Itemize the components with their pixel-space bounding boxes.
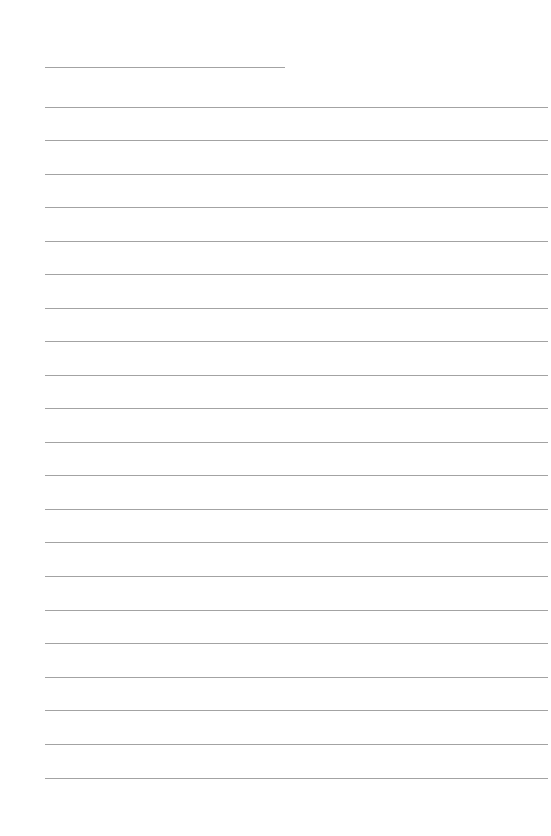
ruled-line	[45, 744, 548, 745]
ruled-line	[45, 207, 548, 208]
ruled-line	[45, 643, 548, 644]
ruled-line	[45, 375, 548, 376]
ruled-line	[45, 475, 548, 476]
ruled-line	[45, 341, 548, 342]
lined-paper-page	[0, 0, 551, 836]
ruled-line	[45, 778, 548, 779]
ruled-line	[45, 274, 548, 275]
ruled-line	[45, 174, 548, 175]
ruled-line	[45, 542, 548, 543]
ruled-line	[45, 677, 548, 678]
ruled-line	[45, 408, 548, 409]
title-line	[45, 67, 285, 68]
ruled-line	[45, 241, 548, 242]
ruled-line	[45, 509, 548, 510]
ruled-line	[45, 107, 548, 108]
ruled-line	[45, 710, 548, 711]
ruled-line	[45, 576, 548, 577]
ruled-line	[45, 610, 548, 611]
ruled-line	[45, 442, 548, 443]
ruled-line	[45, 140, 548, 141]
ruled-line	[45, 308, 548, 309]
